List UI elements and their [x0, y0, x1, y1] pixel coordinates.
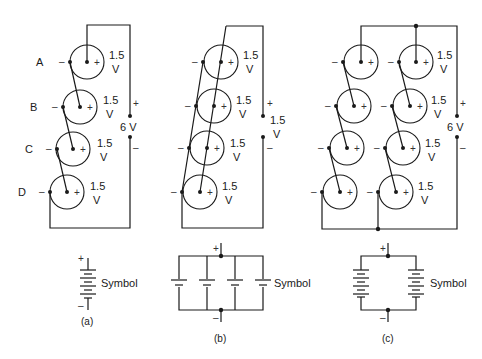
- total-voltage-label: 6 V: [120, 121, 137, 133]
- minus-sign: –: [185, 100, 191, 111]
- panel-c-left-cell-1: + –: [332, 45, 378, 79]
- minus-sign: –: [332, 56, 338, 67]
- cell-voltage: 1.5: [103, 94, 118, 106]
- minus-sign: –: [318, 142, 324, 153]
- positive-terminal: [128, 114, 132, 118]
- minus-sign: –: [192, 56, 198, 67]
- total-voltage-value: 1.5: [270, 114, 285, 126]
- symbol-a-plus: +: [78, 253, 84, 264]
- panel-a-link-cd: [57, 149, 67, 192]
- cell-voltage: 1.5: [230, 137, 245, 149]
- cell-voltage: 1.5: [418, 180, 433, 192]
- cell-voltage: 1.5: [222, 180, 237, 192]
- plus-sign: +: [87, 102, 93, 113]
- minus-sign: –: [59, 56, 65, 67]
- minus-sign: –: [171, 186, 177, 197]
- plus-sign: +: [207, 187, 213, 198]
- cell-voltage: 1.5: [243, 49, 258, 61]
- plus-sign: +: [74, 187, 80, 198]
- cell-voltage-unit: V: [112, 63, 120, 75]
- cell-voltage: 1.5: [437, 49, 452, 61]
- cell-voltage-unit: V: [428, 151, 436, 163]
- plus-sign: +: [368, 57, 374, 68]
- symbol-c-plus: +: [380, 243, 386, 254]
- panel-c-right-cell-3: + – 1.5 V: [374, 131, 440, 165]
- negative-terminal: [128, 135, 132, 139]
- minus-sign: –: [52, 101, 58, 112]
- plus-sign: +: [80, 144, 86, 155]
- plus-sign: +: [214, 143, 220, 154]
- cell-label-a: A: [36, 56, 44, 68]
- terminal-minus-sign: –: [460, 142, 466, 153]
- plus-sign: +: [423, 57, 429, 68]
- minus-sign: –: [39, 186, 45, 197]
- symbol-a-minus: –: [78, 300, 84, 311]
- cell-voltage-unit: V: [100, 151, 108, 163]
- cell-label-d: D: [18, 186, 26, 198]
- panel-c-bottom-junction: [376, 227, 380, 231]
- minus-sign: –: [46, 143, 52, 154]
- plus-sign: +: [403, 187, 409, 198]
- panel-b-cell-3: + – 1.5 V: [178, 131, 245, 165]
- minus-sign: –: [388, 56, 394, 67]
- cell-voltage-unit: V: [93, 194, 101, 206]
- plus-sign: +: [347, 187, 353, 198]
- panel-c-right-cell-4: + – 1.5 V: [367, 175, 433, 209]
- cell-voltage-unit: V: [246, 63, 254, 75]
- cell-b: + – B 1.5 V: [30, 90, 118, 124]
- panel-c-left-cell-4: + –: [311, 175, 357, 209]
- panel-c-left-cell-2: + –: [325, 89, 371, 123]
- cell-voltage: 1.5: [90, 180, 105, 192]
- positive-terminal: [261, 114, 265, 118]
- panel-c-left-cell-3: + –: [318, 131, 364, 165]
- terminal-plus-sign: +: [460, 98, 466, 109]
- panel-c-series-parallel: + – + – + – + – + – 1.5 V + –: [311, 24, 467, 344]
- cell-voltage: 1.5: [109, 49, 124, 61]
- cell-c: + – C 1.5 V: [25, 132, 112, 166]
- minus-sign: –: [381, 100, 387, 111]
- cell-voltage-unit: V: [239, 108, 247, 120]
- plus-sign: +: [228, 57, 234, 68]
- minus-sign: –: [178, 142, 184, 153]
- cell-voltage: 1.5: [431, 94, 446, 106]
- terminal-plus-sign: +: [267, 98, 273, 109]
- panel-c-bottom-wire: [322, 137, 457, 229]
- symbol-a-label: Symbol: [101, 277, 138, 289]
- plus-sign: +: [361, 101, 367, 112]
- symbol-b-label: Symbol: [274, 277, 311, 289]
- cell-voltage-unit: V: [225, 194, 233, 206]
- plus-sign: +: [417, 101, 423, 112]
- panel-b-negative-bus: [182, 62, 203, 192]
- minus-sign: –: [311, 186, 317, 197]
- symbol-c-minus: –: [380, 312, 386, 323]
- panel-c-right-cell-1: + – 1.5 V: [388, 45, 452, 79]
- panel-b-cell-2: + – 1.5 V: [185, 89, 251, 123]
- panel-b-cell-4: + – 1.5 V: [171, 175, 237, 209]
- total-voltage-unit: V: [273, 128, 281, 140]
- terminal-minus-sign: –: [133, 142, 139, 153]
- symbol-b-minus: –: [213, 312, 219, 323]
- cell-voltage: 1.5: [236, 94, 251, 106]
- cell-voltage-unit: V: [434, 108, 442, 120]
- panel-c-right-cell-2: + – 1.5 V: [381, 89, 446, 123]
- plus-sign: +: [94, 57, 100, 68]
- cell-voltage-unit: V: [421, 194, 429, 206]
- panel-b-cell-1: + – 1.5 V: [192, 45, 258, 79]
- terminal-minus-sign: –: [267, 142, 273, 153]
- symbol-b-plus: +: [213, 243, 219, 254]
- cell-label-b: B: [30, 101, 37, 113]
- cell-voltage: 1.5: [97, 137, 112, 149]
- negative-terminal: [261, 135, 265, 139]
- cell-label-c: C: [25, 143, 33, 155]
- battery-connections-diagram: + – A 1.5 V + – B 1.5 V + – C 1.5 V: [0, 0, 482, 359]
- cell-voltage-unit: V: [106, 108, 114, 120]
- negative-terminal: [455, 135, 459, 139]
- panel-b-parallel: + – 1.5 V + – 1.5 V + – 1.5 V +: [171, 26, 311, 344]
- caption-b: (b): [214, 333, 226, 344]
- cell-voltage-unit: V: [440, 63, 448, 75]
- plus-sign: +: [354, 143, 360, 154]
- cell-voltage: 1.5: [425, 137, 440, 149]
- minus-sign: –: [374, 142, 380, 153]
- minus-sign: –: [367, 186, 373, 197]
- panel-a-series: + – A 1.5 V + – B 1.5 V + – C 1.5 V: [18, 25, 139, 327]
